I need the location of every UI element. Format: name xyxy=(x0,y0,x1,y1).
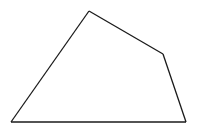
edge-right xyxy=(163,54,186,122)
edge-left xyxy=(11,11,89,122)
edge-top xyxy=(89,11,163,54)
quadrilateral-diagram xyxy=(0,0,200,133)
